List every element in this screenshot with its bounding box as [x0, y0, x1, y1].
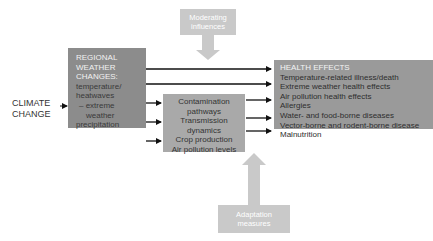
middle-item: Contamination [163, 97, 245, 107]
moderating-influences-box: Moderating influences [180, 9, 236, 35]
middle-item: Crop production [163, 135, 245, 145]
climate-change-line2: CHANGE [12, 109, 51, 120]
moderating-line1: Moderating [180, 13, 236, 22]
middle-item: dynamics [163, 126, 245, 136]
regional-heading-1: REGIONAL [76, 53, 146, 63]
climate-change-line1: CLIMATE [12, 98, 51, 109]
moderating-line2: influences [180, 22, 236, 31]
regional-heading-2: WEATHER [76, 63, 146, 73]
adaptation-line1: Adaptation [218, 210, 290, 219]
intermediate-factors-box: Contamination pathways Transmission dyna… [163, 94, 245, 152]
health-effect-item: Water- and food-borne diseases [280, 111, 433, 121]
health-effects-box: HEALTH EFFECTS Temperature-related illne… [274, 60, 433, 129]
moderating-down-arrow [196, 35, 220, 60]
regional-heading-3: CHANGES: [76, 72, 146, 82]
health-effect-item: Malnutrition [280, 130, 433, 140]
middle-item: pathways [163, 107, 245, 117]
regional-weather-changes-box: REGIONAL WEATHER CHANGES: temperature/ h… [68, 48, 146, 128]
health-effect-item: Allergies [280, 101, 433, 111]
health-effect-item: Vector-borne and rodent-borne disease [280, 121, 433, 131]
regional-item: temperature/ [76, 82, 146, 92]
regional-item: precipitation [76, 120, 146, 130]
climate-change-label: CLIMATE CHANGE [12, 98, 51, 120]
middle-item: Transmission [163, 116, 245, 126]
health-effect-item: Air pollution health effects [280, 92, 433, 102]
regional-item: weather [76, 111, 146, 121]
health-effect-item: Extreme weather health effects [280, 82, 433, 92]
adaptation-line2: measures [218, 219, 290, 228]
regional-item: heatwaves [76, 91, 146, 101]
middle-item: Air pollution levels [163, 145, 245, 155]
health-effects-heading: HEALTH EFFECTS [280, 63, 433, 73]
adaptation-measures-box: Adaptation measures [218, 205, 290, 233]
regional-item: – extreme [76, 101, 146, 111]
adaptation-up-arrow [242, 153, 266, 205]
health-effect-item: Temperature-related illness/death [280, 73, 433, 83]
